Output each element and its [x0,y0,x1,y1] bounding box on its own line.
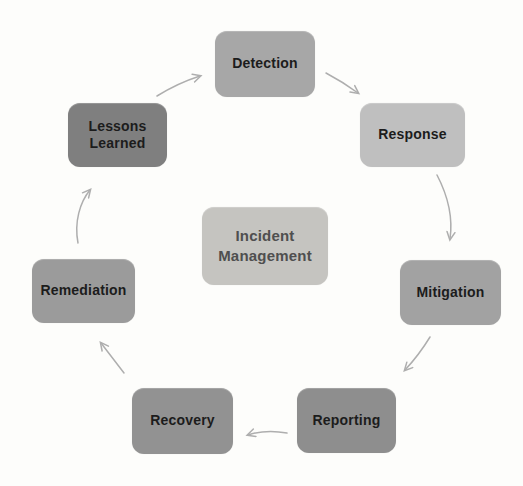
node-remediation-label: Remediation [34,282,132,300]
arrow-detection-to-response [326,73,358,93]
node-recovery-label: Recovery [144,412,221,430]
node-detection-label: Detection [226,55,304,73]
node-remediation: Remediation [32,259,135,323]
node-mitigation-label: Mitigation [410,284,490,302]
arrow-lessons-learned-to-detection [157,76,200,96]
incident-management-cycle-diagram: Detection Response Mitigation Reporting … [0,0,523,486]
node-mitigation: Mitigation [400,260,501,325]
node-lessons-learned-label: Lessons Learned [68,118,167,153]
node-reporting-label: Reporting [307,412,387,430]
arrow-recovery-to-remediation [101,343,124,373]
node-incident-management-center: Incident Management [202,207,328,285]
arrow-remediation-to-lessons-learned [77,190,90,243]
arrow-response-to-mitigation [437,175,451,239]
node-incident-management-label: Incident Management [202,226,328,267]
arrow-reporting-to-recovery [248,431,287,435]
node-response: Response [360,103,465,167]
node-lessons-learned: Lessons Learned [68,103,167,167]
node-response-label: Response [372,126,453,144]
node-recovery: Recovery [132,388,233,454]
arrow-mitigation-to-reporting [405,337,430,370]
node-detection: Detection [215,31,315,97]
node-reporting: Reporting [297,388,396,453]
